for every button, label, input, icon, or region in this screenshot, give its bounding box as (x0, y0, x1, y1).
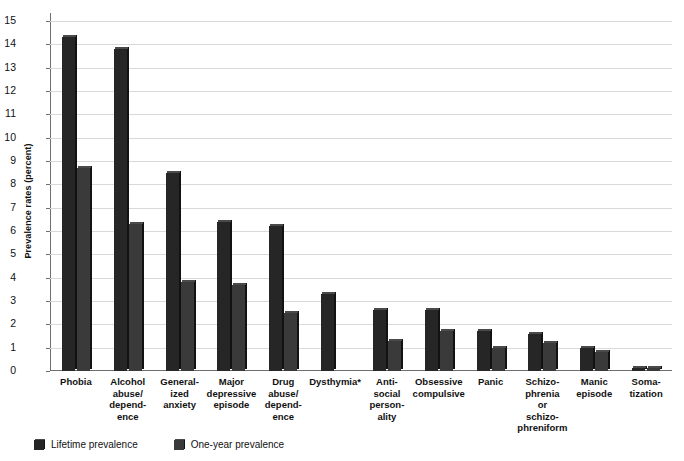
plot-area: 0123456789101112131415 (50, 21, 672, 371)
bar-group (269, 21, 297, 371)
y-tick-label: 14 (0, 37, 16, 49)
y-tick-label: 1 (0, 341, 16, 353)
y-tick-mark (46, 44, 50, 45)
bar-group (580, 21, 608, 371)
bar-group (373, 21, 401, 371)
gridline (50, 208, 672, 209)
bar-one-year (388, 341, 401, 371)
y-tick-mark (46, 21, 50, 22)
chart-legend: Lifetime prevalence One-year prevalence (34, 439, 320, 450)
y-tick-mark (46, 278, 50, 279)
bar-one-year (181, 282, 194, 371)
bar-one-year (647, 368, 660, 372)
y-tick-label: 12 (0, 84, 16, 96)
y-tick-mark (46, 324, 50, 325)
bar-group (321, 21, 349, 371)
bar-group (528, 21, 556, 371)
bar-lifetime (217, 222, 230, 371)
bar-lifetime (166, 173, 179, 371)
y-tick-label: 13 (0, 61, 16, 73)
x-category-label: Soma-tization (604, 376, 684, 399)
bar-one-year (595, 352, 608, 371)
gridline (50, 138, 672, 139)
bar-lifetime (528, 334, 541, 371)
gridline (50, 114, 672, 115)
bar-one-year (440, 331, 453, 371)
y-tick-label: 3 (0, 294, 16, 306)
y-tick-mark (46, 231, 50, 232)
bar-lifetime (269, 226, 282, 371)
y-tick-mark (46, 184, 50, 185)
y-tick-label: 9 (0, 154, 16, 166)
legend-item-lifetime: Lifetime prevalence (34, 439, 138, 450)
y-axis-title: Prevalence rates (percent) (23, 111, 33, 291)
x-axis-line (50, 370, 672, 371)
bar-one-year (492, 348, 505, 371)
bar-group (632, 21, 660, 371)
bar-lifetime (321, 294, 334, 371)
y-tick-label: 5 (0, 247, 16, 259)
bar-lifetime (373, 310, 386, 371)
y-tick-label: 7 (0, 201, 16, 213)
legend-item-one-year: One-year prevalence (174, 439, 284, 450)
y-tick-mark (46, 371, 50, 372)
y-tick-mark (46, 301, 50, 302)
bar-group (114, 21, 142, 371)
bar-one-year (232, 285, 245, 371)
y-tick-label: 8 (0, 177, 16, 189)
y-tick-mark (46, 161, 50, 162)
y-tick-mark (46, 348, 50, 349)
legend-label: Lifetime prevalence (51, 439, 138, 450)
y-tick-mark (46, 114, 50, 115)
y-tick-label: 4 (0, 271, 16, 283)
y-tick-mark (46, 208, 50, 209)
gridline (50, 91, 672, 92)
y-tick-label: 0 (0, 364, 16, 376)
bar-group (425, 21, 453, 371)
bar-lifetime (114, 49, 127, 371)
bar-group (217, 21, 245, 371)
bar-lifetime (62, 37, 75, 371)
y-tick-mark (46, 138, 50, 139)
y-tick-label: 15 (0, 14, 16, 26)
bar-lifetime (580, 348, 593, 371)
gridline (50, 161, 672, 162)
gridline (50, 44, 672, 45)
y-tick-label: 11 (0, 107, 16, 119)
bar-group (62, 21, 90, 371)
gridline (50, 21, 672, 22)
bar-one-year (284, 313, 297, 371)
bar-lifetime (632, 368, 645, 372)
chart-figure: Prevalence rates (percent) 0123456789101… (0, 0, 684, 461)
bar-lifetime (477, 331, 490, 371)
bar-group (477, 21, 505, 371)
y-tick-label: 6 (0, 224, 16, 236)
y-tick-mark (46, 68, 50, 69)
gridline (50, 68, 672, 69)
legend-swatch-icon (174, 440, 184, 450)
bar-one-year (77, 168, 90, 371)
bar-group (166, 21, 194, 371)
bar-lifetime (425, 310, 438, 371)
y-tick-label: 10 (0, 131, 16, 143)
legend-swatch-icon (34, 440, 44, 450)
legend-label: One-year prevalence (191, 439, 284, 450)
bar-one-year (129, 224, 142, 371)
y-tick-label: 2 (0, 317, 16, 329)
y-tick-mark (46, 91, 50, 92)
bar-one-year (543, 343, 556, 371)
y-tick-mark (46, 254, 50, 255)
gridline (50, 184, 672, 185)
